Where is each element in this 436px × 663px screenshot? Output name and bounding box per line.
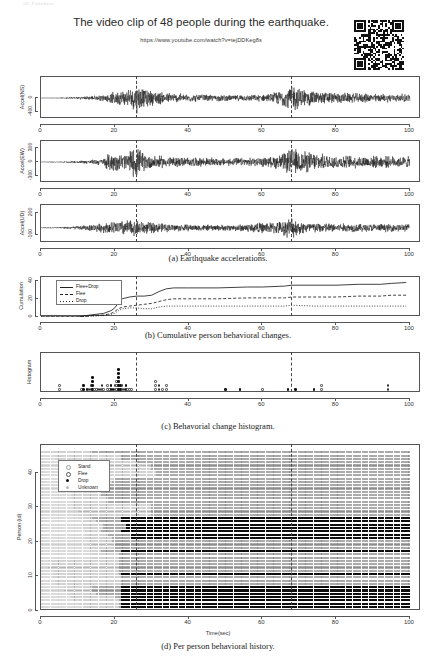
caption-b: (b) Cumulative person behavioral changes… — [0, 330, 436, 340]
accel-ud-plot-area — [40, 204, 420, 242]
legend-label: Flee+Drop — [76, 284, 99, 290]
person-cell-drop — [407, 603, 409, 605]
person-cell-drop — [407, 606, 409, 608]
person-cell-flee — [407, 510, 409, 512]
legend-label: Flee — [78, 471, 87, 477]
accel-ns-event-marker — [291, 76, 292, 118]
person-cell-flee — [407, 478, 409, 480]
qr-code[interactable] — [354, 20, 404, 70]
person-x-axis-label: Time(sec) — [0, 630, 436, 636]
accel-ns-x-tick-label: 40 — [184, 127, 191, 133]
person-y-tick-label: 20 — [27, 538, 33, 544]
histogram-x-tick-label: 80 — [332, 401, 339, 407]
histogram-event-marker — [291, 352, 292, 392]
histogram-x-tick-label: 100 — [404, 401, 414, 407]
person-cell-drop — [407, 589, 409, 591]
histogram-point-open — [106, 384, 109, 387]
person-cell-flee — [407, 540, 409, 542]
cumulative-y-tick-label: 0 — [27, 315, 33, 318]
legend-key-flee — [62, 471, 75, 477]
accel-ud-x-axis-line — [40, 248, 409, 249]
person-cell-flee — [407, 487, 409, 489]
person-cell-flee — [407, 507, 409, 509]
person-cell-drop — [407, 550, 409, 552]
cumulative-y-tick-mark — [35, 280, 38, 281]
person-y-tick-mark — [35, 610, 38, 611]
video-url[interactable]: https://www.youtube.com/watch?v=tejDDKeg… — [56, 37, 346, 43]
histogram-x-tick-label: 60 — [258, 401, 265, 407]
accel-ns-x-tick-label: 60 — [258, 127, 265, 133]
person-cell-flee — [407, 474, 409, 476]
chart-accel-ns: -4000Accel(NS)020406080100 — [0, 76, 436, 138]
person-y-tick-mark — [35, 472, 38, 473]
accel-ns-y-tick-label: 0 — [27, 96, 33, 99]
line-sample-dashed — [60, 294, 73, 295]
accel-ew-plot-area — [40, 140, 420, 182]
accel-ew-y-tick-label: 300 — [27, 143, 33, 152]
symbol-filled — [66, 479, 69, 482]
person-x-tick-label: 80 — [332, 619, 339, 625]
accel-ew-y-tick-mark — [35, 147, 38, 148]
accel-ew-x-tick-label: 40 — [184, 191, 191, 197]
histogram-point-open — [154, 384, 157, 387]
histogram-point-open — [121, 384, 124, 387]
person-cell-flee — [407, 484, 409, 486]
chart-behavior-histogram: Histogram020406080100 — [0, 352, 436, 414]
person-cell-drop — [407, 527, 409, 529]
cumulative-event-marker — [136, 276, 137, 316]
accel-ud-y-tick-mark — [35, 234, 38, 235]
person-cell-flee — [407, 451, 409, 453]
accel-ew-y-axis-label: Accel(EW) — [19, 148, 25, 173]
accel-ns-y-axis-label: Accel(NS) — [19, 85, 25, 109]
histogram-point-open — [165, 384, 168, 387]
person-cell-drop — [407, 593, 409, 595]
person-event-marker — [291, 444, 292, 610]
histogram-point-open — [158, 388, 161, 391]
person-x-tick-label: 40 — [184, 619, 191, 625]
chart-accel-ew: -3000300Accel(EW)020406080100 — [0, 140, 436, 202]
person-cell-flee — [407, 458, 409, 460]
person-x-tick-label: 20 — [110, 619, 117, 625]
person-cell-flee — [407, 547, 409, 549]
histogram-point-open — [154, 380, 157, 383]
cumulative-y-tick-label: 20 — [27, 295, 33, 301]
histogram-point-filled — [110, 384, 113, 387]
video-header: The video clip of 48 people during the e… — [0, 16, 436, 74]
person-y-axis-label: Person (id) — [16, 514, 22, 540]
histogram-point-open — [130, 388, 133, 391]
histogram-point-filled — [117, 372, 120, 375]
histogram-y-axis-label: Histogram — [26, 360, 32, 385]
person-cell-flee — [407, 464, 409, 466]
person-cell-flee — [407, 560, 409, 562]
accel-ns-trace — [41, 77, 421, 119]
cumulative-y-tick-mark — [35, 298, 38, 299]
accel-ns-y-tick-label: -400 — [27, 105, 33, 115]
person-x-tick-label: 60 — [258, 619, 265, 625]
histogram-point-filled — [82, 384, 85, 387]
legend-key-dashed — [60, 291, 73, 297]
person-cell-drop — [407, 573, 409, 575]
accel-ew-x-axis-line — [40, 188, 409, 189]
legend-item-flee-drop: Flee+Drop — [60, 283, 118, 290]
person-cell-drop — [407, 586, 409, 588]
person-cell-drop — [407, 596, 409, 598]
accel-ns-x-tick-label: 80 — [332, 127, 339, 133]
legend-item-stand: Stand — [62, 463, 106, 470]
person-cell-flee — [407, 514, 409, 516]
person-cell-flee — [407, 455, 409, 457]
legend-label: Drop — [76, 298, 86, 304]
histogram-plot-area — [40, 352, 420, 392]
person-x-axis-line — [40, 616, 409, 617]
histogram-point-open — [102, 388, 105, 391]
person-cell-flee — [407, 576, 409, 578]
histogram-point-filled — [82, 388, 85, 391]
person-y-tick-label: 0 — [27, 609, 33, 612]
person-cell-flee — [407, 481, 409, 483]
person-cell-flee — [407, 563, 409, 565]
accel-ew-x-tick-label: 60 — [258, 191, 265, 197]
legend-key-solid — [60, 284, 73, 290]
accel-ud-y-axis-line — [35, 212, 36, 235]
legend-item-unknown: Unknown — [62, 484, 106, 491]
legend-label: Unknown — [78, 485, 98, 491]
accel-ns-y-axis-line — [35, 97, 36, 111]
